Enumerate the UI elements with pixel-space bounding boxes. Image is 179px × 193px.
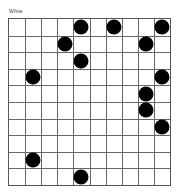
board-cell[interactable] — [138, 152, 154, 169]
board-cell[interactable] — [41, 135, 57, 152]
black-stone[interactable] — [74, 169, 89, 184]
board-cell[interactable] — [9, 19, 25, 36]
board-cell[interactable] — [57, 135, 73, 152]
black-stone[interactable] — [74, 53, 89, 68]
board-cell[interactable] — [57, 52, 73, 69]
board-cell[interactable] — [73, 119, 89, 136]
board-cell[interactable] — [154, 36, 170, 53]
board-cell[interactable] — [41, 119, 57, 136]
board-cell[interactable] — [9, 52, 25, 69]
board-cell[interactable] — [154, 152, 170, 169]
board-cell[interactable] — [25, 135, 41, 152]
black-stone[interactable] — [26, 70, 41, 85]
board-cell[interactable] — [90, 36, 106, 53]
board-cell[interactable] — [9, 168, 25, 185]
board-cell[interactable] — [57, 152, 73, 169]
board-cell[interactable] — [9, 85, 25, 102]
board-cell[interactable] — [122, 152, 138, 169]
board-cell[interactable] — [106, 85, 122, 102]
board-cell[interactable] — [154, 168, 170, 185]
board-cell[interactable] — [154, 85, 170, 102]
board-cell[interactable] — [122, 168, 138, 185]
black-stone[interactable] — [138, 36, 153, 51]
board-cell[interactable] — [73, 36, 89, 53]
board-cell[interactable] — [41, 168, 57, 185]
board-cell[interactable] — [106, 135, 122, 152]
board-cell[interactable] — [9, 36, 25, 53]
board-cell[interactable] — [122, 135, 138, 152]
board-cell[interactable] — [57, 168, 73, 185]
board-cell[interactable] — [57, 19, 73, 36]
board-cell[interactable] — [73, 85, 89, 102]
board-cell[interactable] — [25, 19, 41, 36]
board-cell[interactable] — [122, 52, 138, 69]
board-cell[interactable] — [41, 36, 57, 53]
board-cell[interactable] — [9, 69, 25, 86]
board-cell[interactable] — [41, 152, 57, 169]
board-cell[interactable] — [122, 102, 138, 119]
board-cell[interactable] — [106, 69, 122, 86]
black-stone[interactable] — [138, 86, 153, 101]
board-cell[interactable] — [106, 168, 122, 185]
board-cell[interactable] — [138, 135, 154, 152]
board-cell[interactable] — [41, 85, 57, 102]
board-cell[interactable] — [90, 152, 106, 169]
board-cell[interactable] — [90, 119, 106, 136]
board-cell[interactable] — [138, 168, 154, 185]
board-cell[interactable] — [138, 19, 154, 36]
board-cell[interactable] — [154, 52, 170, 69]
board-cell[interactable] — [57, 69, 73, 86]
board-cell[interactable] — [106, 119, 122, 136]
board-cell[interactable] — [90, 52, 106, 69]
black-stone[interactable] — [154, 20, 169, 35]
board-cell[interactable] — [41, 52, 57, 69]
board-cell[interactable] — [90, 19, 106, 36]
board-cell[interactable] — [9, 102, 25, 119]
board-cell[interactable] — [138, 119, 154, 136]
board-cell[interactable] — [122, 85, 138, 102]
board-cell[interactable] — [25, 36, 41, 53]
board-cell[interactable] — [25, 85, 41, 102]
board-cell[interactable] — [90, 135, 106, 152]
board-cell[interactable] — [122, 36, 138, 53]
board-cell[interactable] — [57, 85, 73, 102]
board-cell[interactable] — [154, 102, 170, 119]
board-cell[interactable] — [90, 102, 106, 119]
board-cell[interactable] — [90, 69, 106, 86]
black-stone[interactable] — [154, 119, 169, 134]
board-cell[interactable] — [25, 119, 41, 136]
board-cell[interactable] — [25, 168, 41, 185]
board-cell[interactable] — [41, 19, 57, 36]
board-cell[interactable] — [90, 85, 106, 102]
board-cell[interactable] — [73, 69, 89, 86]
board-cell[interactable] — [73, 135, 89, 152]
board-cell[interactable] — [9, 135, 25, 152]
board-cell[interactable] — [122, 69, 138, 86]
black-stone[interactable] — [106, 20, 121, 35]
game-board[interactable] — [8, 18, 171, 186]
board-cell[interactable] — [57, 102, 73, 119]
board-cell[interactable] — [90, 168, 106, 185]
board-cell[interactable] — [41, 102, 57, 119]
black-stone[interactable] — [58, 36, 73, 51]
black-stone[interactable] — [26, 153, 41, 168]
board-cell[interactable] — [138, 52, 154, 69]
board-cell[interactable] — [106, 152, 122, 169]
black-stone[interactable] — [138, 103, 153, 118]
board-cell[interactable] — [9, 119, 25, 136]
board-cell[interactable] — [9, 152, 25, 169]
board-cell[interactable] — [138, 69, 154, 86]
board-cell[interactable] — [122, 19, 138, 36]
board-cell[interactable] — [25, 102, 41, 119]
board-cell[interactable] — [106, 102, 122, 119]
board-cell[interactable] — [73, 102, 89, 119]
black-stone[interactable] — [74, 20, 89, 35]
board-cell[interactable] — [106, 36, 122, 53]
board-cell[interactable] — [57, 119, 73, 136]
board-cell[interactable] — [41, 69, 57, 86]
board-cell[interactable] — [106, 52, 122, 69]
board-cell[interactable] — [122, 119, 138, 136]
board-cell[interactable] — [73, 152, 89, 169]
black-stone[interactable] — [154, 70, 169, 85]
board-cell[interactable] — [154, 135, 170, 152]
